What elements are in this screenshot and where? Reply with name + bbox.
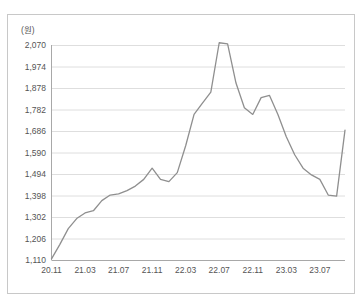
x-tick-label: 21.11: [142, 265, 163, 275]
y-tick-label: 1,302: [25, 212, 47, 222]
y-axis-tick-labels: 2,0701,9741,8781,7821,6861,5901,4941,398…: [25, 40, 47, 265]
x-tick-label: 23.07: [309, 265, 331, 275]
y-tick-label: 1,206: [25, 234, 47, 244]
x-tick-label: 21.03: [74, 265, 96, 275]
y-tick-label: 1,686: [25, 126, 47, 136]
x-tick-label: 21.07: [108, 265, 130, 275]
y-tick-label: 1,878: [25, 83, 47, 93]
x-tick-label: 20.11: [41, 265, 62, 275]
y-tick-label: 1,110: [25, 255, 46, 265]
y-tick-label: 1,590: [25, 148, 47, 158]
data-series-line: [52, 43, 346, 259]
x-tick-label: 22.11: [242, 265, 263, 275]
y-tick-label: 2,070: [25, 40, 47, 50]
gridlines-group: [52, 46, 346, 240]
x-tick-label: 23.03: [276, 265, 298, 275]
y-tick-label: 1,974: [25, 62, 47, 72]
y-tick-label: 1,494: [25, 169, 47, 179]
plot-area: 2,0701,9741,8781,7821,6861,5901,4941,398…: [0, 0, 363, 302]
x-tick-label: 22.03: [175, 265, 197, 275]
y-tick-label: 1,398: [25, 191, 47, 201]
y-tick-label: 1,782: [25, 105, 47, 115]
x-tick-label: 22.07: [209, 265, 231, 275]
price-line-chart: (원) 2,0701,9741,8781,7821,6861,5901,4941…: [0, 0, 363, 302]
x-axis-tick-labels: 20.1121.0321.0721.1122.0322.0722.1123.03…: [41, 265, 331, 275]
